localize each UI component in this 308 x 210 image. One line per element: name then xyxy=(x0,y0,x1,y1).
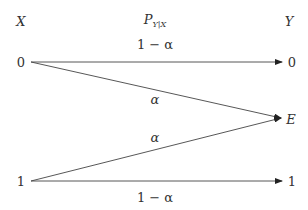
channel-header-main: P xyxy=(144,12,153,27)
output-node-1: 1 xyxy=(288,175,296,188)
edge-label-0-to-0: 1 − α xyxy=(137,38,173,51)
output-header: Y xyxy=(285,15,294,28)
edge-label-1-to-e: α xyxy=(151,131,160,144)
input-node-1: 1 xyxy=(17,175,25,188)
output-node-e: E xyxy=(286,113,296,126)
channel-header-sub: Y|X xyxy=(153,20,167,29)
edge-1-to-e xyxy=(31,118,281,181)
edge-label-0-to-e: α xyxy=(151,93,160,106)
edge-label-1-to-1: 1 − α xyxy=(137,191,173,204)
channel-header: PY|X xyxy=(144,13,166,29)
input-header: X xyxy=(16,15,25,28)
input-node-0: 0 xyxy=(17,56,25,69)
edge-0-to-e xyxy=(31,62,281,118)
output-node-0: 0 xyxy=(288,56,296,69)
